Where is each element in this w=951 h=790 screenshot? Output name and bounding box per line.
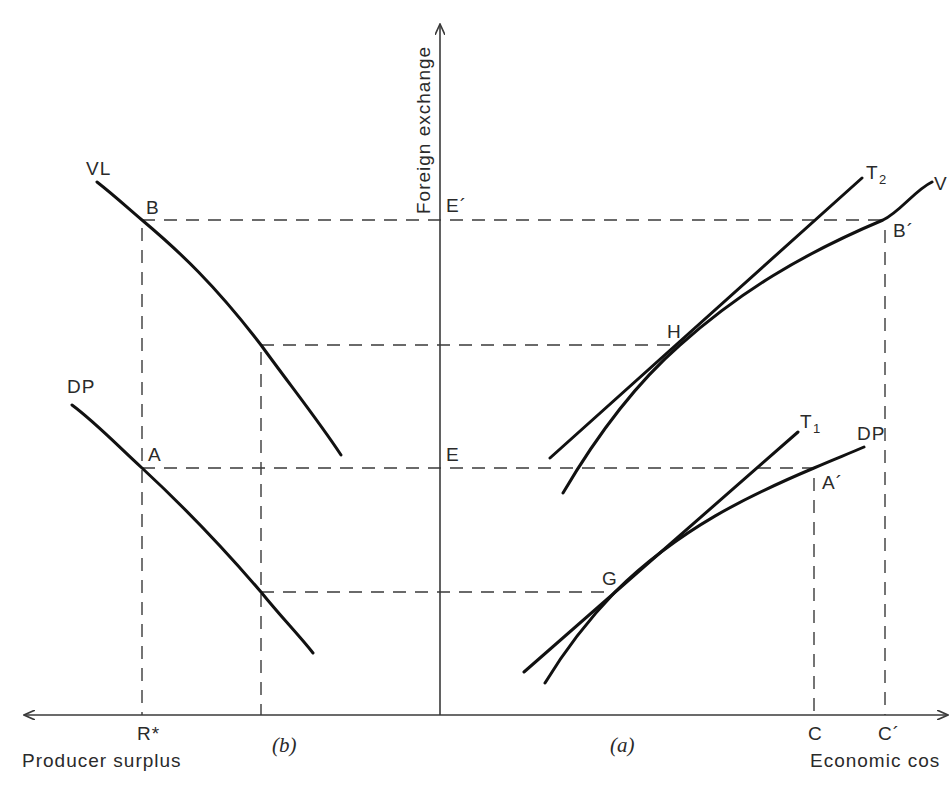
tangent-t2	[550, 178, 862, 458]
tick-c-prime: C´	[878, 723, 900, 744]
svg-text:1: 1	[813, 421, 820, 436]
label-dp-right: DP	[857, 423, 885, 444]
panel-label-a: (a)	[610, 733, 635, 757]
point-g: G	[602, 568, 618, 589]
y-axis-label: Foreign exchange	[413, 46, 434, 214]
point-a: A	[148, 444, 162, 465]
curve-v	[563, 182, 932, 493]
svg-text:T: T	[866, 162, 879, 183]
label-dp-left: DP	[67, 376, 95, 397]
label-t1: T 1	[800, 411, 820, 436]
label-t2: T 2	[866, 162, 886, 187]
point-b: B	[146, 197, 160, 218]
tick-c: C	[808, 723, 823, 744]
curve-vl	[97, 182, 341, 455]
point-e: E	[446, 444, 460, 465]
svg-text:T: T	[800, 411, 813, 432]
label-v: V	[934, 173, 948, 194]
diagram-canvas: Foreign exchange Producer surplus Econom…	[0, 0, 951, 790]
label-vl: VL	[86, 158, 111, 179]
left-panel-curves	[72, 182, 341, 653]
curve-dp-left	[72, 405, 313, 653]
curve-dp-right	[545, 447, 864, 683]
panel-label-b: (b)	[272, 733, 297, 757]
guide-lines	[142, 220, 885, 715]
point-b-prime: B´	[893, 220, 914, 241]
tick-r-star: R*	[137, 723, 160, 744]
point-a-prime: A´	[822, 472, 843, 493]
point-h: H	[667, 321, 682, 342]
x-axis-label-left: Producer surplus	[22, 750, 182, 771]
point-e-prime: E´	[446, 195, 467, 216]
svg-text:2: 2	[879, 172, 886, 187]
x-axis-label-right: Economic cos	[810, 750, 940, 771]
axes	[24, 24, 948, 715]
